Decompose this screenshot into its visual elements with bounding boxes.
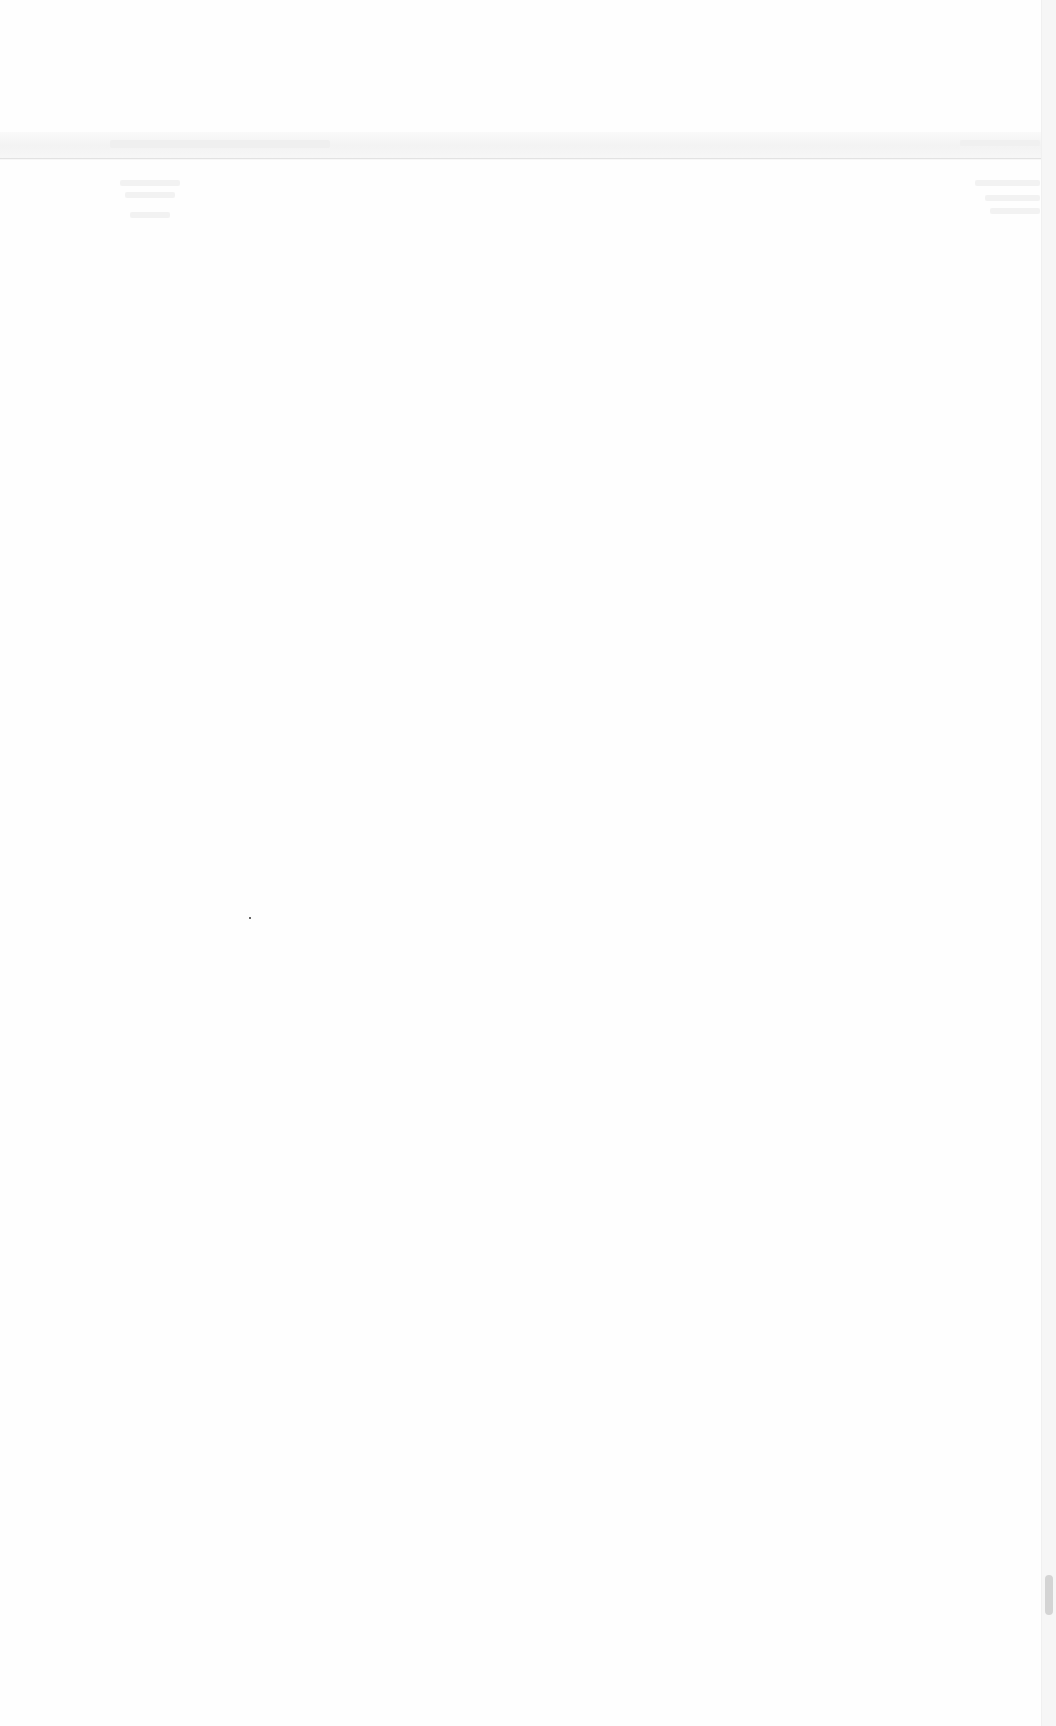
content-line-left-1 bbox=[120, 180, 180, 186]
header-divider bbox=[0, 158, 1042, 159]
content-line-right-2 bbox=[985, 195, 1040, 201]
content-line-left-2 bbox=[125, 192, 175, 198]
stray-dot bbox=[249, 917, 251, 919]
blank-page bbox=[0, 0, 1056, 1726]
content-line-right-3 bbox=[990, 208, 1040, 214]
header-text-placeholder-right bbox=[960, 140, 1040, 146]
content-line-right-1 bbox=[975, 180, 1040, 186]
header-text-placeholder-left bbox=[110, 140, 330, 148]
scrollbar-thumb[interactable] bbox=[1045, 1575, 1053, 1615]
vertical-scrollbar[interactable] bbox=[1041, 0, 1056, 1726]
content-line-left-3 bbox=[130, 212, 170, 218]
